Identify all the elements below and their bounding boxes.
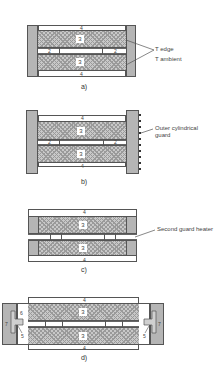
- region-number: 4: [83, 297, 86, 303]
- region-number: 7: [5, 321, 8, 327]
- region-number: 5: [21, 333, 24, 339]
- region-number: 3: [79, 308, 87, 316]
- region-number: 7: [158, 321, 161, 327]
- caption-d: d): [78, 354, 90, 361]
- region-number: 5: [143, 333, 146, 339]
- t-shaped-heaters: [0, 0, 215, 365]
- region-number: 6: [20, 310, 23, 316]
- region-number: 4: [83, 345, 86, 351]
- region-number: 3: [79, 332, 87, 340]
